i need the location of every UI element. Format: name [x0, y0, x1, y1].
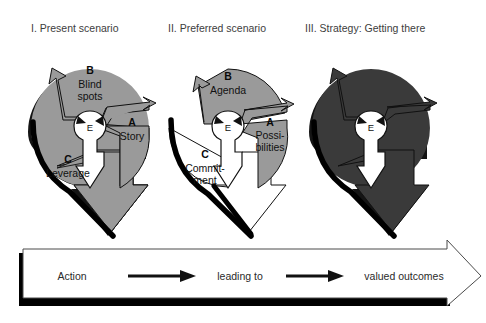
flow-step-2: leading to: [217, 270, 263, 282]
panel-2-wedge-c-line-1: Commit-: [185, 162, 225, 174]
panel-1-title: I. Present scenario: [31, 22, 119, 34]
panel-2-wedge-c-letter: C: [201, 148, 209, 160]
flow-step-1: Action: [57, 270, 86, 282]
panel-2-wedge-b-line-1: Agenda: [210, 84, 246, 96]
panel-1-wedge-a-letter: A: [128, 116, 136, 128]
panel-1-wedge-a-line-1: Story: [120, 130, 145, 142]
panel-1-wedge-b-letter: B: [86, 64, 94, 76]
panel-2-wedge-a-line-1: Possi-: [255, 129, 285, 141]
flow-step-3: valued outcomes: [364, 270, 443, 282]
panel-2-wedge-c-line-2: ment: [193, 174, 216, 186]
panel-3-center-label: E: [368, 122, 374, 133]
panel-1-wedge-b-line-2: spots: [77, 90, 102, 102]
panel-2-center-label: E: [225, 122, 231, 133]
diagram-svg: I. Present scenario II. Preferred scenar…: [0, 0, 486, 323]
panel-1-wedge-c-line-1: Leverage: [46, 167, 90, 179]
panel-1-wedge-c-letter: C: [64, 153, 72, 165]
panel-1-center-label: E: [87, 122, 93, 133]
panel-2-wedge-b-letter: B: [224, 70, 232, 82]
panel-1-wedge-b-line-1: Blind: [78, 78, 102, 90]
panel-2-title: II. Preferred scenario: [168, 22, 266, 34]
diagram-canvas: I. Present scenario II. Preferred scenar…: [0, 0, 486, 323]
panel-2-wedge-a-line-2: bilities: [255, 141, 284, 153]
flow-band: Action leading to valued outcomes: [19, 240, 481, 306]
panel-2-wedge-a-letter: A: [266, 116, 274, 128]
panel-3-title: III. Strategy: Getting there: [305, 22, 425, 34]
